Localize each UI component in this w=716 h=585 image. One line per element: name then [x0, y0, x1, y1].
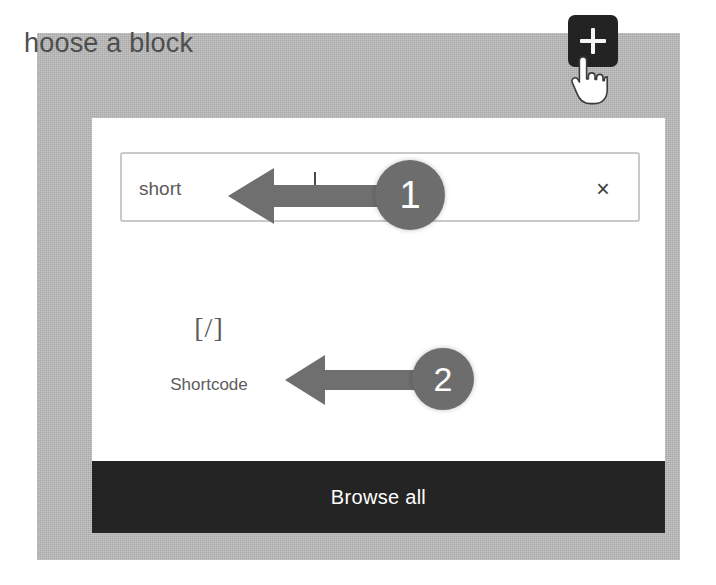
annotation-callout-2: 2 — [285, 348, 485, 412]
annotation-badge-2: 2 — [412, 348, 474, 410]
page-title: hoose a block — [24, 28, 193, 59]
clear-search-button[interactable]: × — [586, 172, 620, 206]
pointing-hand-cursor — [570, 55, 608, 105]
shortcode-icon: [/] — [134, 311, 284, 345]
browse-all-button[interactable]: Browse all — [92, 461, 665, 533]
annotation-callout-1: 1 — [228, 160, 448, 232]
shortcode-block-result[interactable]: [/] Shortcode — [134, 311, 284, 395]
annotation-badge-1: 1 — [375, 160, 445, 230]
screenshot-canvas: hoose a block × [/] Shortcode Browse all — [0, 0, 716, 585]
block-result-label: Shortcode — [134, 375, 284, 395]
plus-icon-vertical — [591, 28, 595, 54]
